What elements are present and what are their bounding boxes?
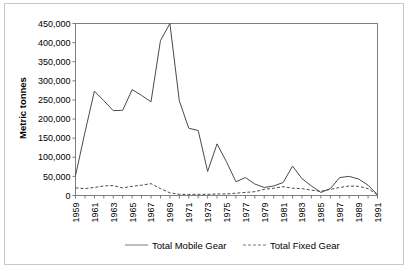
plot-area-border [76, 24, 378, 196]
chart-figure: Metric tonnes 450,000400,000350,000300,0… [0, 0, 409, 271]
x-tick-label: 1985 [316, 203, 326, 223]
x-tick-label: 1971 [184, 203, 194, 223]
y-tick-label: 400,000 [38, 38, 71, 48]
chart-legend: Total Mobile Gear Total Fixed Gear [125, 240, 340, 251]
x-tick-label: 1987 [335, 203, 345, 223]
series-line-total-fixed-gear [76, 184, 378, 195]
y-tick-label: 300,000 [38, 76, 71, 86]
x-tick-label: 1983 [297, 203, 307, 223]
legend-label-total-mobile-gear: Total Mobile Gear [152, 240, 226, 251]
y-tick-label: 350,000 [38, 57, 71, 67]
axis-lines [76, 24, 378, 196]
x-tick-label: 1967 [146, 203, 156, 223]
y-tick-label: 0 [65, 191, 70, 201]
y-tick-label: 450,000 [38, 19, 71, 29]
y-tick-label: 250,000 [38, 95, 71, 105]
x-tick-label: 1975 [222, 203, 232, 223]
tick-marks [73, 24, 378, 199]
x-tick-label: 1965 [128, 203, 138, 223]
x-tick-label: 1979 [260, 203, 270, 223]
x-tick-label: 1961 [90, 203, 100, 223]
x-tick-label: 1969 [165, 203, 175, 223]
y-tick-label: 200,000 [38, 114, 71, 124]
legend-label-total-fixed-gear: Total Fixed Gear [270, 240, 340, 251]
x-tick-labels: 1959196119631965196719691971197319751977… [71, 203, 383, 223]
y-tick-label: 50,000 [43, 172, 71, 182]
series-line-total-mobile-gear [76, 24, 378, 195]
y-tick-label: 100,000 [38, 152, 71, 162]
x-tick-label: 1973 [203, 203, 213, 223]
x-tick-label: 1981 [279, 203, 289, 223]
line-chart: Metric tonnes 450,000400,000350,000300,0… [0, 0, 409, 271]
x-tick-label: 1959 [71, 203, 81, 223]
data-series [76, 24, 378, 195]
x-tick-label: 1989 [354, 203, 364, 223]
y-tick-labels: 450,000400,000350,000300,000250,000200,0… [38, 19, 71, 201]
y-axis-label: Metric tonnes [17, 77, 28, 139]
x-tick-label: 1963 [109, 203, 119, 223]
x-tick-label: 1977 [241, 203, 251, 223]
y-axis-title: Metric tonnes [17, 77, 28, 139]
y-tick-label: 150,000 [38, 133, 71, 143]
x-tick-label: 1991 [373, 203, 383, 223]
